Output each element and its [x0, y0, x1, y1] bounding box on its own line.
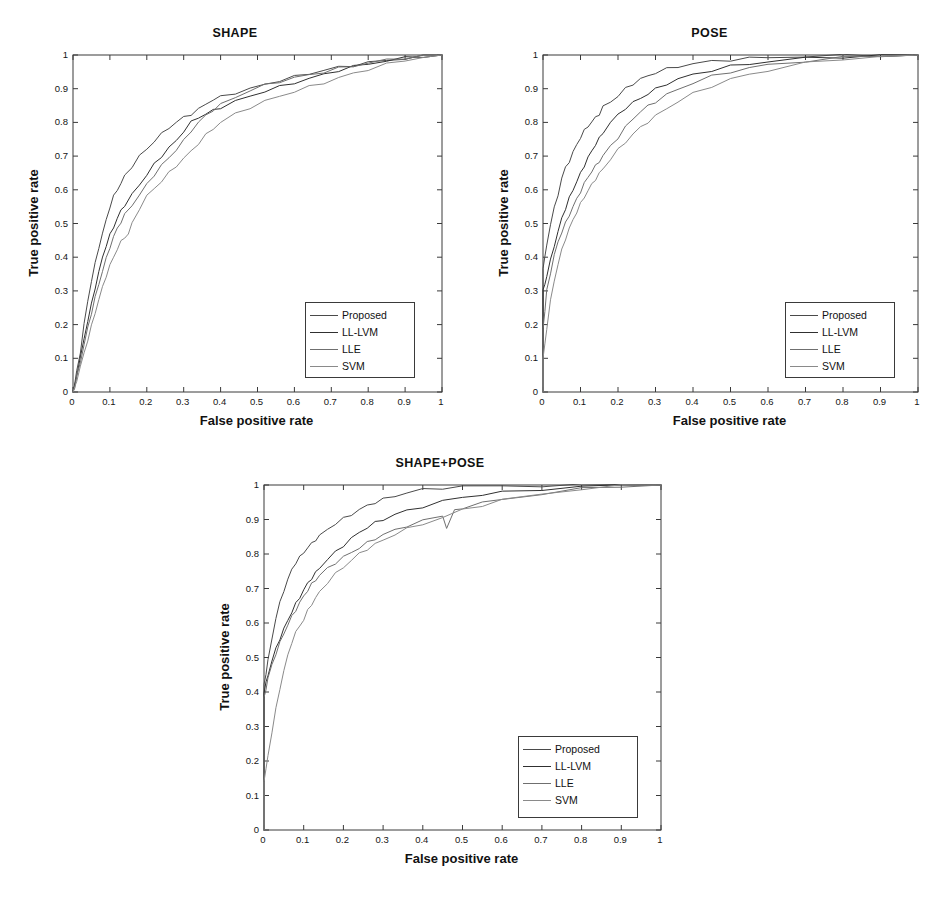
legend-item-ll-lvm[interactable]: LL-LVM [790, 324, 888, 341]
panel-title: POSE [470, 26, 949, 40]
y-tick-label: 0.3 [246, 720, 259, 731]
panel-shape-pose: SHAPE+POSE 00.10.20.30.40.50.60.70.80.91… [190, 456, 690, 896]
y-axis-label: True positive rate [496, 169, 511, 277]
y-tick-label: 0.6 [246, 617, 259, 628]
legend-item-proposed[interactable]: Proposed [790, 307, 888, 324]
x-tick-label: 0 [69, 396, 74, 407]
legend-line-swatch [310, 366, 338, 367]
y-axis-label: True positive rate [217, 603, 232, 711]
x-tick-label: 0.7 [534, 834, 547, 845]
y-tick-label: 0.8 [55, 116, 68, 127]
y-axis-label: True positive rate [26, 169, 41, 277]
legend-item-proposed[interactable]: Proposed [310, 307, 408, 324]
x-tick-label: 0.1 [296, 834, 309, 845]
x-tick-label: 0.5 [455, 834, 468, 845]
legend-line-swatch [310, 349, 338, 350]
legend-label: SVM [342, 361, 365, 372]
y-tick-label: 0.1 [246, 789, 259, 800]
legend-label: SVM [822, 361, 845, 372]
y-tick-label: 1 [254, 479, 259, 490]
panel-title: SHAPE+POSE [190, 456, 690, 470]
x-tick-label: 0.6 [760, 396, 773, 407]
x-tick-label: 1 [914, 396, 919, 407]
y-tick-label: 0.1 [55, 352, 68, 363]
x-tick-label: 0.8 [574, 834, 587, 845]
x-tick-label: 0.2 [336, 834, 349, 845]
legend-item-ll-lvm[interactable]: LL-LVM [523, 758, 631, 775]
chart-legend[interactable]: ProposedLL-LVMLLESVM [518, 736, 638, 818]
x-tick-label: 0 [539, 396, 544, 407]
x-tick-label: 0.2 [610, 396, 623, 407]
x-tick-label: 0.1 [102, 396, 115, 407]
y-tick-label: 0.5 [246, 651, 259, 662]
legend-label: Proposed [822, 310, 867, 321]
legend-line-swatch [790, 349, 818, 350]
legend-item-lle[interactable]: LLE [790, 341, 888, 358]
legend-item-svm[interactable]: SVM [523, 792, 631, 809]
y-tick-label: 0.4 [246, 686, 259, 697]
x-tick-label: 0 [260, 834, 265, 845]
x-tick-label: 0.9 [873, 396, 886, 407]
x-tick-label: 0.4 [213, 396, 226, 407]
x-tick-label: 0.5 [250, 396, 263, 407]
y-tick-label: 0 [254, 824, 259, 835]
legend-label: LL-LVM [342, 327, 378, 338]
y-tick-label: 0.1 [525, 352, 538, 363]
legend-label: LL-LVM [555, 761, 591, 772]
chart-legend[interactable]: ProposedLL-LVMLLESVM [785, 302, 895, 378]
panel-shape: SHAPE 00.10.20.30.40.50.60.70.80.9100.10… [0, 26, 470, 438]
legend-line-swatch [523, 783, 551, 784]
legend-line-swatch [310, 332, 338, 333]
x-tick-label: 0.1 [573, 396, 586, 407]
y-tick-label: 1 [533, 49, 538, 60]
y-tick-label: 0.5 [525, 217, 538, 228]
legend-line-swatch [523, 766, 551, 767]
x-axis-label: False positive rate [72, 413, 441, 428]
y-tick-label: 0.7 [525, 150, 538, 161]
y-tick-label: 1 [63, 49, 68, 60]
x-tick-label: 0.6 [287, 396, 300, 407]
plot-area: 00.10.20.30.40.50.60.70.80.9100.10.20.30… [542, 54, 919, 393]
legend-label: Proposed [555, 744, 600, 755]
panel-title: SHAPE [0, 26, 470, 40]
legend-item-lle[interactable]: LLE [523, 775, 631, 792]
y-tick-label: 0.3 [525, 284, 538, 295]
y-tick-label: 0.6 [55, 183, 68, 194]
legend-label: LLE [555, 778, 574, 789]
legend-line-swatch [523, 800, 551, 801]
x-tick-label: 0.3 [375, 834, 388, 845]
y-tick-label: 0 [533, 386, 538, 397]
y-tick-label: 0 [63, 386, 68, 397]
y-tick-label: 0.7 [55, 150, 68, 161]
legend-item-ll-lvm[interactable]: LL-LVM [310, 324, 408, 341]
y-tick-label: 0.2 [55, 318, 68, 329]
plot-area: 00.10.20.30.40.50.60.70.80.9100.10.20.30… [263, 484, 662, 831]
panel-pose: POSE 00.10.20.30.40.50.60.70.80.9100.10.… [470, 26, 949, 438]
x-tick-label: 0.8 [835, 396, 848, 407]
x-tick-label: 0.7 [324, 396, 337, 407]
legend-label: LLE [822, 344, 841, 355]
legend-item-proposed[interactable]: Proposed [523, 741, 631, 758]
legend-item-svm[interactable]: SVM [790, 358, 888, 375]
y-tick-label: 0.4 [525, 251, 538, 262]
y-tick-label: 0.3 [55, 284, 68, 295]
x-tick-label: 0.9 [397, 396, 410, 407]
legend-label: LLE [342, 344, 361, 355]
legend-line-swatch [790, 332, 818, 333]
legend-item-svm[interactable]: SVM [310, 358, 408, 375]
x-tick-label: 0.4 [685, 396, 698, 407]
chart-legend[interactable]: ProposedLL-LVMLLESVM [305, 302, 415, 378]
plot-area: 00.10.20.30.40.50.60.70.80.9100.10.20.30… [72, 54, 443, 393]
legend-item-lle[interactable]: LLE [310, 341, 408, 358]
legend-label: Proposed [342, 310, 387, 321]
x-axis-label: False positive rate [542, 413, 917, 428]
y-tick-label: 0.6 [525, 183, 538, 194]
x-tick-label: 1 [657, 834, 662, 845]
y-tick-label: 0.9 [55, 82, 68, 93]
y-tick-label: 0.2 [525, 318, 538, 329]
legend-line-swatch [790, 315, 818, 316]
y-tick-label: 0.2 [246, 755, 259, 766]
y-tick-label: 0.7 [246, 582, 259, 593]
legend-label: SVM [555, 795, 578, 806]
x-tick-label: 0.8 [361, 396, 374, 407]
